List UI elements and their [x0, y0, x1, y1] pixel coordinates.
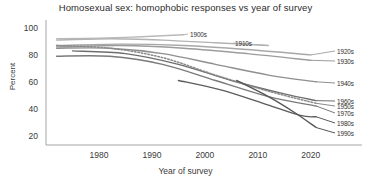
series-line-1950s: [57, 46, 317, 104]
series-label-1900s: 1900s: [190, 31, 207, 38]
leader-line-1940s: [316, 82, 335, 83]
leader-line-1920s: [311, 51, 335, 55]
leader-line-1900s: [184, 34, 188, 35]
series-label-1990s: 1990s: [337, 130, 354, 137]
series-label-1950s: 1950s: [337, 103, 354, 110]
leader-line-1990s: [316, 128, 335, 133]
plot-area: [0, 0, 371, 183]
leader-line-1950s: [316, 103, 335, 106]
leader-line-1980s: [316, 117, 335, 123]
series-label-1940s: 1940s: [337, 80, 354, 87]
series-label-1970s: 1970s: [337, 110, 354, 117]
chart-container: Homosexual sex: homophobic responses vs …: [0, 0, 371, 183]
series-line-1940s: [57, 48, 317, 82]
series-label-1920s: 1920s: [337, 48, 354, 55]
leader-line-1930s: [311, 60, 335, 61]
leader-line-1970s: [316, 106, 335, 113]
series-line-1960s: [72, 51, 316, 101]
series-line-1970s: [57, 56, 317, 106]
series-label-1930s: 1930s: [337, 58, 354, 65]
series-label-1980s: 1980s: [337, 120, 354, 127]
series-label-1910s: 1910s: [235, 40, 252, 47]
